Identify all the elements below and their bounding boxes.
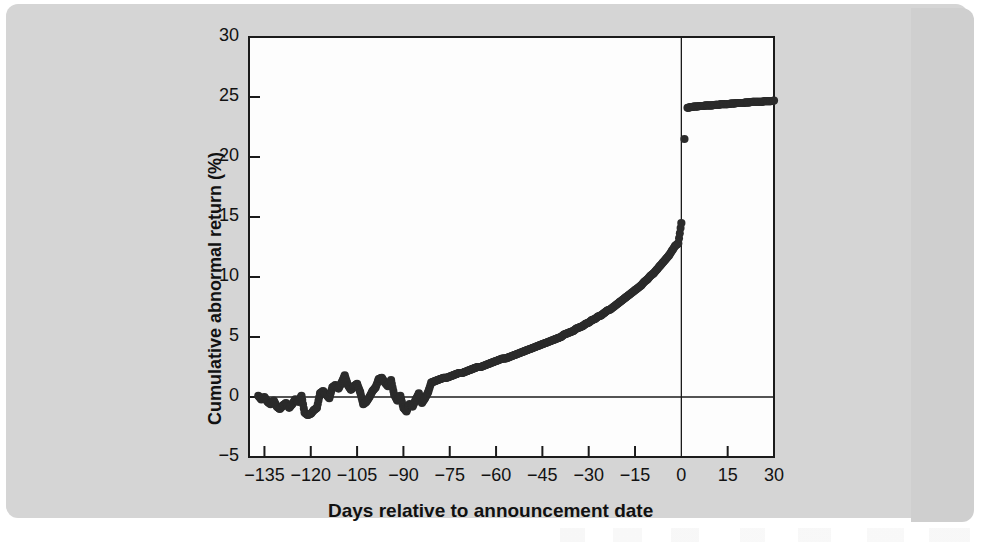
x-tick-label: −45 <box>516 465 568 486</box>
x-tick-label: −75 <box>424 465 476 486</box>
y-tick-label: 10 <box>193 265 239 286</box>
y-tick-label: 15 <box>193 205 239 226</box>
x-tick-label: −120 <box>285 465 337 486</box>
y-tick-label: 5 <box>193 325 239 346</box>
x-tick-label: −30 <box>563 465 615 486</box>
x-tick-label: −135 <box>238 465 290 486</box>
y-tick-label: 30 <box>193 25 239 46</box>
y-tick-label: 0 <box>193 385 239 406</box>
x-axis-title: Days relative to announcement date <box>328 500 653 522</box>
x-tick-label: −15 <box>609 465 661 486</box>
x-tick-label: 0 <box>655 465 707 486</box>
x-tick-label: −90 <box>377 465 429 486</box>
axis-tick-marks <box>249 97 774 457</box>
data-point-group <box>254 97 778 420</box>
x-tick-label: 30 <box>748 465 800 486</box>
y-tick-label: −5 <box>193 445 239 466</box>
x-tick-label: 15 <box>702 465 754 486</box>
page-scan-artifact <box>560 528 970 542</box>
y-tick-label: 25 <box>193 85 239 106</box>
x-tick-label: −60 <box>470 465 522 486</box>
y-tick-label: 20 <box>193 145 239 166</box>
x-tick-label: −105 <box>331 465 383 486</box>
